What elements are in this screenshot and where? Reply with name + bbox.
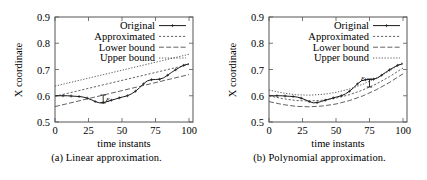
legend-label-b-3: Upper bound <box>314 52 370 63</box>
x-tick-label-b-2: 50 <box>331 125 342 136</box>
y-axis-label-b: X coordinate <box>227 42 238 97</box>
series-line-b-original <box>269 64 403 103</box>
x-tick-label-a-0: 0 <box>52 125 57 136</box>
chart-svg-b: X coordinate 0.9 0.8 0.7 0.6 0.5 <box>213 0 427 150</box>
legend-label-a-3: Upper bound <box>100 52 156 63</box>
x-tick-label-a-4: 100 <box>181 125 197 136</box>
series-line-a-lower-bound <box>55 75 189 107</box>
legend-b: Original Approximated Lower bound Upper … <box>308 20 400 63</box>
legend-label-a-1: Approximated <box>94 31 155 42</box>
y-tick-label-a-1: 0.6 <box>37 91 50 102</box>
x-axis-label-b: time instants <box>311 138 364 149</box>
legend-label-a-2: Lower bound <box>99 42 156 53</box>
x-tick-label-b-3: 75 <box>364 125 375 136</box>
y-axis-label-a: X coordinate <box>13 42 24 97</box>
x-tick-label-b-1: 25 <box>297 125 308 136</box>
x-tick-label-a-1: 25 <box>83 125 94 136</box>
y-tick-label-a-0: 0.5 <box>37 117 50 128</box>
epsilon-label-b: ε <box>361 73 365 83</box>
x-tick-label-b-0: 0 <box>266 125 271 136</box>
legend-swatch-marker-b-0 <box>385 24 388 27</box>
y-tick-label-b-2: 0.7 <box>251 65 264 76</box>
y-tick-label-a-3: 0.8 <box>37 38 50 49</box>
legend-swatch-marker-a-0 <box>171 24 174 27</box>
x-axis-label-a: time instants <box>97 138 150 149</box>
y-tick-label-b-3: 0.8 <box>251 38 264 49</box>
plot-area-b: X coordinate 0.9 0.8 0.7 0.6 0.5 <box>213 0 426 150</box>
y-tick-label-b-0: 0.5 <box>251 117 264 128</box>
series-group-b <box>269 62 403 107</box>
figure-container: X coordinate 0.9 0.8 0.7 0.6 0.5 <box>0 0 427 180</box>
plot-area-a: X coordinate 0.9 0.8 0.7 0.6 0.5 <box>0 0 213 150</box>
panel-caption-b: (b) Polynomial approximation. <box>213 152 426 163</box>
y-tick-label-b-4: 0.9 <box>251 12 264 23</box>
series-line-b-lower-bound <box>269 74 403 107</box>
legend-label-b-2: Lower bound <box>313 42 370 53</box>
x-tick-label-a-2: 50 <box>117 125 128 136</box>
legend-label-a-0: Original <box>120 20 155 31</box>
y-tick-label-a-4: 0.9 <box>37 12 50 23</box>
legend-label-b-1: Approximated <box>308 31 369 42</box>
x-tick-label-a-3: 75 <box>150 125 161 136</box>
panel-caption-a: (a) Linear approximation. <box>0 152 213 163</box>
x-tick-label-b-4: 100 <box>395 125 411 136</box>
y-tick-label-b-1: 0.6 <box>251 91 264 102</box>
legend-a: Original Approximated Lower bound Upper … <box>94 20 186 63</box>
legend-label-b-0: Original <box>334 20 369 31</box>
chart-svg-a: X coordinate 0.9 0.8 0.7 0.6 0.5 <box>0 0 213 150</box>
series-line-b-upper-bound <box>269 62 403 95</box>
y-tick-label-a-2: 0.7 <box>37 65 50 76</box>
panel-polynomial-approximation: X coordinate 0.9 0.8 0.7 0.6 0.5 <box>213 0 426 180</box>
panel-linear-approximation: X coordinate 0.9 0.8 0.7 0.6 0.5 <box>0 0 213 180</box>
epsilon-label-a: ε <box>106 94 110 104</box>
series-line-a-approximated <box>55 65 189 97</box>
